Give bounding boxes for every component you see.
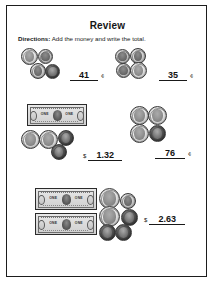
coin-nickel — [30, 63, 46, 79]
bill-portrait-icon — [62, 194, 71, 205]
currency-symbol-3: $ — [83, 153, 86, 159]
coin-quarter — [21, 130, 40, 149]
coin-nickel — [120, 193, 136, 209]
coin-quarter — [130, 124, 149, 143]
bill-denomination-left: ONE — [49, 221, 57, 225]
coin-nickel — [38, 49, 53, 64]
answer-5: $ 2.63 — [144, 214, 188, 225]
answer-blank-1[interactable]: 41 — [70, 70, 98, 81]
coin-pile-2 — [115, 48, 149, 80]
page-title: Review — [7, 20, 208, 31]
coin-pile-4 — [130, 106, 168, 142]
worksheet-page: Review Directions: Add the money and wri… — [0, 0, 213, 283]
dollar-bill: ONE ONE — [27, 104, 87, 126]
coin-penny — [99, 224, 116, 241]
directions-line: Directions: Add the money and write the … — [18, 35, 203, 42]
page-frame: Review Directions: Add the money and wri… — [6, 5, 207, 277]
answer-blank-3[interactable]: 1.32 — [88, 150, 122, 161]
coin-nickel — [116, 63, 131, 78]
coin-penny — [115, 224, 132, 241]
bill-denomination-right: ONE — [75, 221, 83, 225]
coin-quarter — [148, 106, 167, 125]
coin-quarter — [130, 62, 147, 79]
answer-3: $ 1.32 — [83, 150, 125, 161]
coin-pile-1 — [21, 48, 69, 82]
bill-denomination-left: ONE — [41, 112, 49, 116]
bill-portrait-icon — [53, 110, 62, 121]
bill-denomination-left: ONE — [49, 196, 57, 200]
answer-1: 41 ¢ — [68, 70, 104, 81]
cent-symbol-1: ¢ — [101, 73, 104, 79]
answer-2: 35 ¢ — [157, 70, 193, 81]
cent-symbol-2: ¢ — [190, 73, 193, 79]
coin-quarter — [130, 106, 149, 125]
directions-text: Add the money and write the total. — [50, 35, 145, 42]
dollar-bill: ONE ONE — [35, 213, 97, 235]
coin-pile-5 — [99, 188, 145, 244]
coin-penny — [45, 64, 60, 79]
bill-denomination-right: ONE — [75, 196, 83, 200]
currency-symbol-5: $ — [144, 217, 147, 223]
bill-denomination-right: ONE — [65, 112, 73, 116]
directions-label: Directions: — [18, 35, 50, 42]
answer-4: 76 ¢ — [153, 148, 191, 159]
coin-pile-3 — [21, 130, 87, 160]
coin-penny — [149, 125, 166, 142]
answer-blank-5[interactable]: 2.63 — [149, 214, 185, 225]
bill-portrait-icon — [62, 219, 71, 230]
coin-dime — [115, 49, 130, 64]
answer-blank-2[interactable]: 35 — [159, 70, 187, 81]
coin-penny — [51, 144, 67, 160]
dollar-bill: ONE ONE — [35, 188, 97, 210]
cent-symbol-4: ¢ — [188, 151, 191, 157]
answer-blank-4[interactable]: 76 — [155, 148, 185, 159]
